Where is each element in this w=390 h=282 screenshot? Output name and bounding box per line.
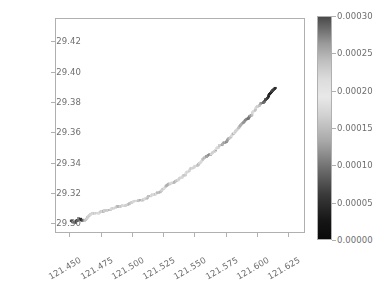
x-axis-tick-mark <box>163 233 164 237</box>
x-axis-tick-label: 121.600 <box>235 255 271 282</box>
y-axis-tick-mark <box>51 223 55 224</box>
x-axis-tick-label: 121.550 <box>172 255 208 282</box>
x-axis-tick-mark <box>194 233 195 237</box>
x-axis-tick-label: 121.475 <box>78 255 114 282</box>
colorbar-tick-mark <box>332 91 336 92</box>
x-axis-tick-mark <box>288 233 289 237</box>
x-axis-tick-mark <box>257 233 258 237</box>
x-axis-tick-mark <box>101 233 102 237</box>
colorbar-tick-label: 0.00010 <box>337 160 373 170</box>
colorbar-tick-label: 0.00000 <box>337 235 373 245</box>
colorbar-tick-label: 0.00025 <box>337 48 373 58</box>
x-axis-tick-mark <box>132 233 133 237</box>
y-axis-tick-mark <box>51 102 55 103</box>
colorbar-tick-mark <box>332 165 336 166</box>
y-axis-tick-mark <box>51 132 55 133</box>
plot-axes <box>55 18 305 233</box>
colorbar-tick-mark <box>332 128 336 129</box>
y-axis-tick-mark <box>51 41 55 42</box>
y-axis-tick-mark <box>51 163 55 164</box>
colorbar-tick-mark <box>332 240 336 241</box>
colorbar-gradient <box>317 16 332 240</box>
x-axis-tick-mark <box>226 233 227 237</box>
x-axis-tick-label: 121.450 <box>47 255 83 282</box>
colorbar-tick-label: 0.00030 <box>337 11 373 21</box>
y-axis-tick-mark <box>51 72 55 73</box>
x-axis-tick-label: 121.625 <box>266 255 302 282</box>
colorbar-tick-mark <box>332 16 336 17</box>
x-axis-tick-mark <box>69 233 70 237</box>
scatter-track-canvas <box>56 19 304 232</box>
colorbar-tick-mark <box>332 53 336 54</box>
colorbar-tick-label: 0.00020 <box>337 86 373 96</box>
colorbar-tick-label: 0.00015 <box>337 123 373 133</box>
x-axis-tick-label: 121.500 <box>110 255 146 282</box>
colorbar-tick-mark <box>332 203 336 204</box>
colorbar-tick-label: 0.00005 <box>337 198 373 208</box>
y-axis-tick-mark <box>51 193 55 194</box>
x-axis-tick-label: 121.525 <box>141 255 177 282</box>
x-axis-tick-label: 121.575 <box>203 255 239 282</box>
